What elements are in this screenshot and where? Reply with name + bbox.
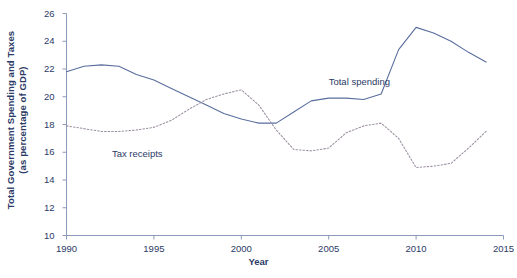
x-tick-label: 1995	[131, 243, 177, 254]
chart-figure: Total Government Spending and Taxes (as …	[0, 0, 517, 278]
y-tick-label: 20	[29, 91, 55, 102]
y-tick-label: 14	[29, 174, 55, 185]
series-annotation-label: Total spending	[329, 76, 390, 87]
plot-area	[0, 0, 517, 278]
y-tick-label: 12	[29, 202, 55, 213]
y-tick-label: 24	[29, 35, 55, 46]
x-tick-label: 2015	[481, 243, 517, 254]
y-tick-label: 26	[29, 8, 55, 19]
series-line	[67, 27, 487, 123]
x-tick-label: 1990	[44, 243, 90, 254]
x-tick-label: 2000	[218, 243, 264, 254]
y-axis-title-line2: (as percentage of GDP)	[17, 31, 29, 209]
series-annotation-label: Tax receipts	[112, 148, 163, 159]
y-tick-label: 22	[29, 63, 55, 74]
y-tick-label: 18	[29, 119, 55, 130]
x-tick-label: 2005	[306, 243, 352, 254]
x-tick-label: 2010	[393, 243, 439, 254]
y-axis-title-line1: Total Government Spending and Taxes	[5, 31, 17, 209]
y-tick-label: 10	[29, 230, 55, 241]
y-tick-label: 16	[29, 146, 55, 157]
x-axis-title: Year	[0, 256, 517, 267]
